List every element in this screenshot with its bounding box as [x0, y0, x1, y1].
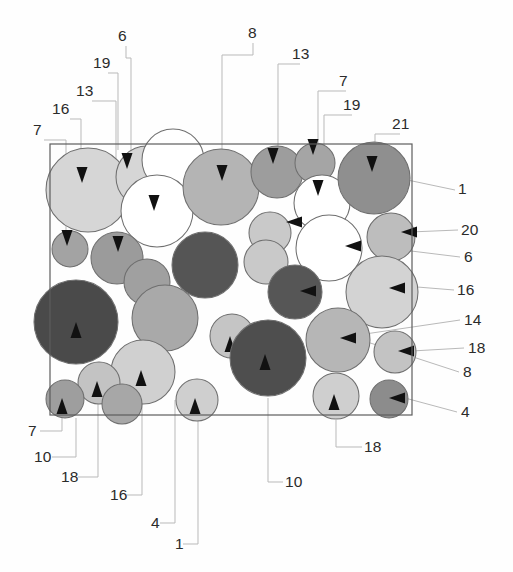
particle	[251, 146, 303, 198]
particle-circle	[46, 148, 130, 232]
leader-line	[412, 348, 464, 351]
leader-line	[126, 46, 131, 160]
particle-circle	[367, 213, 415, 261]
patent-figure: 6191316781371921120616141884710181641101…	[0, 0, 513, 572]
reference-numeral-top-1: 19	[93, 54, 111, 71]
leader-line	[160, 400, 175, 523]
particle	[367, 213, 417, 261]
particle	[46, 148, 130, 232]
reference-numeral-right-6: 8	[463, 363, 472, 380]
reference-numeral-bottom-3: 16	[110, 486, 128, 503]
reference-numeral-top-8: 19	[343, 96, 361, 113]
figure-canvas: 6191316781371921120616141884710181641101…	[0, 0, 513, 572]
leader-line	[405, 398, 457, 412]
leader-line	[268, 398, 283, 482]
reference-numeral-bottom-1: 10	[34, 448, 52, 465]
particle-circle	[251, 146, 303, 198]
reference-numeral-top-4: 7	[33, 121, 42, 138]
reference-numeral-top-9: 21	[392, 115, 410, 132]
leader-line	[410, 230, 458, 232]
reference-numeral-right-2: 6	[464, 248, 473, 265]
particle	[313, 373, 359, 419]
particle	[34, 280, 118, 364]
particle	[374, 331, 416, 373]
particle	[230, 320, 306, 396]
reference-numeral-bottom-4: 4	[151, 514, 160, 531]
reference-numeral-bottom-6: 10	[285, 473, 303, 490]
reference-numeral-right-3: 16	[457, 281, 475, 298]
particle	[102, 384, 142, 424]
reference-numeral-top-7: 7	[339, 72, 348, 89]
reference-numeral-bottom-7: 18	[364, 438, 382, 455]
particle	[52, 230, 88, 267]
particle	[46, 380, 84, 418]
particle	[183, 149, 259, 225]
particle	[370, 380, 408, 418]
particle	[338, 142, 410, 214]
leader-line	[52, 418, 76, 457]
reference-numeral-right-7: 4	[461, 403, 470, 420]
reference-numeral-top-6: 13	[292, 45, 310, 62]
leader-line	[318, 91, 346, 152]
particle-circle	[306, 308, 370, 372]
reference-numeral-right-0: 1	[458, 180, 467, 197]
particle	[268, 265, 322, 319]
reference-numeral-bottom-5: 1	[175, 535, 184, 552]
reference-numeral-right-1: 20	[461, 221, 479, 238]
reference-numeral-right-4: 14	[464, 311, 482, 328]
reference-numeral-top-5: 8	[248, 24, 257, 41]
particle	[306, 308, 370, 372]
particle-circle	[102, 384, 142, 424]
reference-numeral-top-2: 13	[76, 82, 94, 99]
reference-numeral-top-3: 16	[52, 100, 70, 117]
reference-numeral-bottom-2: 18	[61, 468, 79, 485]
leader-line	[183, 400, 198, 544]
reference-numeral-bottom-0: 7	[28, 422, 37, 439]
particle	[172, 232, 238, 298]
leader-line	[278, 64, 300, 160]
particle-field	[34, 129, 418, 424]
particle-circle	[172, 232, 238, 298]
leader-line	[336, 420, 362, 447]
particle-circle	[230, 320, 306, 396]
particle-circle	[183, 149, 259, 225]
particle-circle	[313, 373, 359, 419]
reference-numeral-right-5: 18	[468, 339, 486, 356]
particle-circle	[338, 142, 410, 214]
reference-numeral-top-0: 6	[118, 27, 127, 44]
